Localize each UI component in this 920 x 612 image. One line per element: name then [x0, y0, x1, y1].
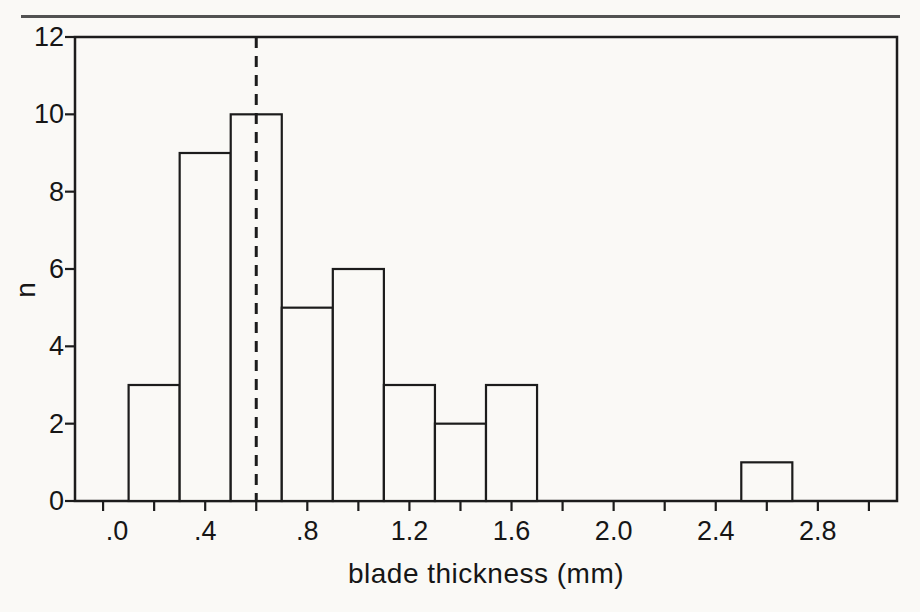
x-axis-tick-label: .4	[194, 516, 217, 546]
x-axis-tick-label: 1.6	[493, 516, 531, 546]
x-axis-tick-label: 2.0	[595, 516, 633, 546]
histogram-bar	[129, 385, 180, 501]
x-axis-title: blade thickness (mm)	[75, 558, 897, 590]
x-axis-tick-label: 2.4	[697, 516, 735, 546]
x-axis-tick-label: .0	[106, 516, 129, 546]
histogram-bar	[435, 424, 486, 501]
histogram-bar	[282, 308, 333, 501]
y-axis-tick-label: 8	[49, 177, 64, 207]
y-axis-tick-label: 10	[34, 99, 64, 129]
histogram-bar	[741, 462, 792, 501]
histogram-bar	[384, 385, 435, 501]
y-axis-tick-label: 4	[49, 331, 64, 361]
y-axis-tick-label: 0	[49, 486, 64, 516]
y-axis-tick-label: 2	[49, 409, 64, 439]
histogram-chart: .0.4.81.21.62.02.42.8024681012	[0, 0, 920, 612]
histogram-bar	[180, 153, 231, 501]
x-axis-tick-label: 2.8	[799, 516, 837, 546]
histogram-bar	[486, 385, 537, 501]
y-axis-title: n	[10, 274, 42, 306]
y-axis-tick-label: 12	[34, 22, 64, 52]
y-axis-tick-label: 6	[49, 254, 64, 284]
histogram-bar	[333, 269, 384, 501]
x-axis-tick-label: .8	[296, 516, 319, 546]
x-axis-tick-label: 1.2	[391, 516, 429, 546]
